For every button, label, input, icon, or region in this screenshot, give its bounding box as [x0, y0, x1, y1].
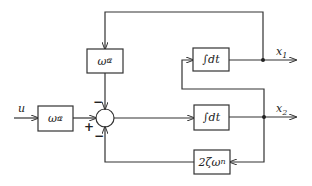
- summing-junction: [96, 109, 114, 127]
- sum-sign-plus: +: [84, 121, 94, 133]
- diagram-wires: [0, 0, 312, 186]
- integrator-1-label: ∫dt: [193, 48, 229, 71]
- output-x1-label: x1: [276, 46, 287, 60]
- damping-label: 2ζωn: [194, 150, 230, 174]
- junction-x2: [262, 115, 266, 119]
- sum-sign-top-minus: −: [93, 96, 103, 108]
- block-diagram: u ωn2 ωn2 ∫dt ∫dt 2ζωn + − − x1 x2: [0, 0, 312, 186]
- junction-x1: [261, 58, 265, 62]
- integrator-2-label: ∫dt: [194, 105, 229, 130]
- input-gain-label: ωn2: [38, 106, 73, 131]
- sum-sign-bottom-minus: −: [94, 130, 104, 142]
- input-label: u: [18, 103, 25, 114]
- output-x2-label: x2: [276, 103, 287, 117]
- feedback-gain-label: ωn2: [87, 49, 123, 73]
